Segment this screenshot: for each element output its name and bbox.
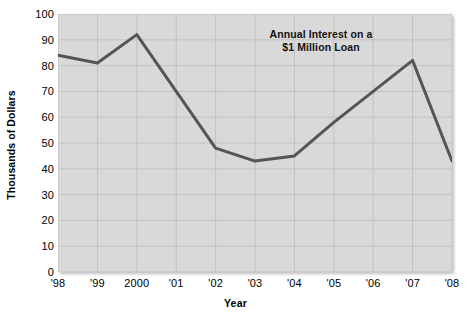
y-axis-tick-label: 20: [20, 214, 54, 226]
chart-title: Annual Interest on a $1 Million Loan: [232, 28, 410, 53]
x-axis-title: Year: [0, 297, 471, 309]
line-chart: Thousands of Dollars 0102030405060708090…: [0, 0, 471, 326]
x-axis-tick-labels: '98'992000'01'02'03'04'05'06'07'08: [0, 277, 471, 295]
y-axis-tick-label: 30: [20, 189, 54, 201]
chart-title-line-1: Annual Interest on a: [232, 28, 410, 41]
y-axis-tick-label: 100: [20, 8, 54, 20]
y-axis-tick-label: 70: [20, 85, 54, 97]
y-axis-title: Thousands of Dollars: [5, 90, 17, 199]
x-axis-tick-label: '08: [429, 277, 471, 289]
y-axis-tick-label: 90: [20, 34, 54, 46]
y-axis-tick-label: 80: [20, 60, 54, 72]
chart-title-line-2: $1 Million Loan: [232, 41, 410, 54]
y-axis-tick-label: 60: [20, 111, 54, 123]
y-axis-tick-label: 50: [20, 137, 54, 149]
y-axis-tick-label: 10: [20, 240, 54, 252]
y-axis-tick-label: 40: [20, 163, 54, 175]
